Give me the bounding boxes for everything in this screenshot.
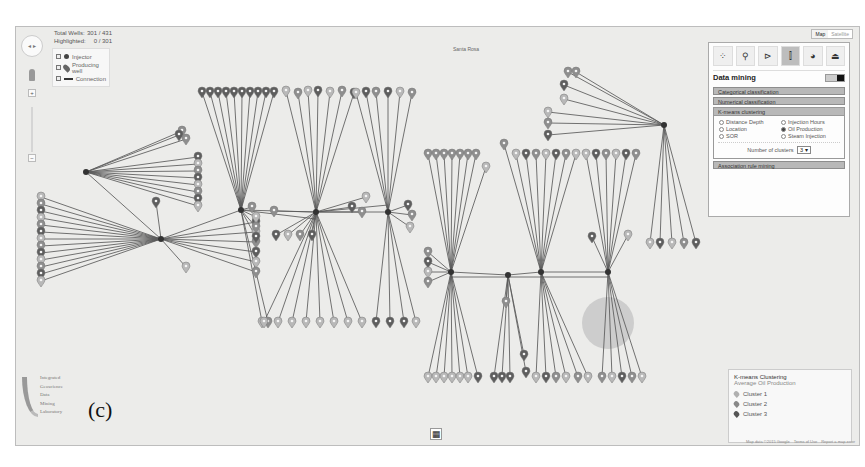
well-pin[interactable] (362, 192, 370, 203)
well-pin[interactable] (344, 317, 352, 328)
well-pin[interactable] (572, 67, 580, 78)
well-pin[interactable] (584, 372, 592, 383)
well-pin[interactable] (424, 149, 432, 160)
well-pin[interactable] (270, 87, 278, 98)
well-pin[interactable] (490, 372, 498, 383)
well-pin[interactable] (464, 372, 472, 383)
well-pin[interactable] (680, 238, 688, 249)
well-pin[interactable] (448, 372, 456, 383)
well-pin[interactable] (618, 372, 626, 383)
well-pin[interactable] (326, 87, 334, 98)
well-pin[interactable] (424, 247, 432, 258)
well-pin[interactable] (552, 149, 560, 160)
kmeans-option[interactable]: Steam Injection (781, 133, 839, 139)
well-pin[interactable] (386, 317, 394, 328)
well-pin[interactable] (582, 149, 590, 160)
well-pin[interactable] (238, 87, 246, 98)
well-pin[interactable] (456, 372, 464, 383)
search-icon[interactable]: ⚲ (736, 46, 756, 66)
well-pin[interactable] (294, 88, 302, 99)
zoom-out-button[interactable]: − (28, 154, 36, 162)
pie-icon[interactable]: ◕ (803, 46, 823, 66)
injector-node[interactable] (83, 169, 89, 175)
well-pin[interactable] (628, 372, 636, 383)
well-pin[interactable] (692, 238, 700, 249)
well-pin[interactable] (472, 149, 480, 160)
well-pin[interactable] (282, 86, 290, 97)
map-canvas[interactable]: ◂ ▸ + − Total Wells:301 / 431 Highlighte… (15, 26, 860, 446)
well-pin[interactable] (522, 367, 530, 378)
well-pin[interactable] (498, 372, 506, 383)
well-pin[interactable] (520, 350, 528, 361)
well-pin[interactable] (412, 317, 420, 328)
well-pin[interactable] (424, 257, 432, 268)
well-pin[interactable] (424, 277, 432, 288)
categorical-classification-section[interactable]: Categorical classification (713, 87, 845, 95)
legend-item-connection[interactable]: Connection (56, 73, 106, 84)
well-pin[interactable] (542, 149, 550, 160)
well-pin[interactable] (668, 238, 676, 249)
scatter-icon[interactable]: ⁘ (713, 46, 733, 66)
checkbox[interactable] (56, 65, 61, 70)
well-pin[interactable] (284, 230, 292, 241)
radio-button[interactable] (719, 134, 724, 139)
kmeans-option[interactable]: Location (719, 126, 777, 132)
zoom-slider[interactable] (31, 107, 33, 152)
well-pin[interactable] (206, 87, 214, 98)
association-rule-mining-section[interactable]: Association rule mining (713, 161, 845, 169)
well-pin[interactable] (358, 317, 366, 328)
well-pin[interactable] (288, 317, 296, 328)
well-pin[interactable] (330, 317, 338, 328)
checkbox[interactable] (56, 54, 61, 59)
well-pin[interactable] (448, 149, 456, 160)
injector-node[interactable] (238, 207, 244, 213)
well-pin[interactable] (522, 149, 530, 160)
well-pin[interactable] (544, 118, 552, 129)
well-pin[interactable] (314, 86, 322, 97)
legend-item-producing-well[interactable]: Producing well (56, 62, 106, 73)
well-pin[interactable] (512, 149, 520, 160)
well-pin[interactable] (638, 372, 646, 383)
injector-node[interactable] (448, 269, 454, 275)
well-pin[interactable] (572, 149, 580, 160)
well-pin[interactable] (408, 210, 416, 221)
well-pin[interactable] (646, 238, 654, 249)
injector-node[interactable] (661, 122, 667, 128)
well-pin[interactable] (316, 317, 324, 328)
well-pin[interactable] (338, 86, 346, 97)
radio-button[interactable] (781, 127, 786, 132)
well-pin[interactable] (424, 372, 432, 383)
well-pin[interactable] (272, 230, 280, 241)
well-pin[interactable] (230, 87, 238, 98)
well-pin[interactable] (542, 372, 550, 383)
well-pin[interactable] (574, 372, 582, 383)
checkbox[interactable] (56, 76, 61, 81)
kmeans-option[interactable]: SOR (719, 133, 777, 139)
flow-icon[interactable]: ⊳ (758, 46, 778, 66)
well-pin[interactable] (500, 139, 508, 150)
well-pin[interactable] (406, 222, 414, 233)
legend-item-injector[interactable]: Injector (56, 51, 106, 62)
injector-node[interactable] (313, 209, 319, 215)
well-pin[interactable] (252, 247, 260, 258)
injector-node[interactable] (605, 269, 611, 275)
well-pin[interactable] (632, 149, 640, 160)
well-pin[interactable] (482, 162, 490, 173)
well-pin[interactable] (182, 262, 190, 273)
kmeans-option[interactable]: Distance Depth (719, 119, 777, 125)
well-pin[interactable] (372, 317, 380, 328)
well-pin[interactable] (384, 87, 392, 98)
well-pin[interactable] (396, 87, 404, 98)
well-pin[interactable] (37, 276, 45, 287)
well-pin[interactable] (304, 86, 312, 97)
well-pin[interactable] (612, 149, 620, 160)
pegman-icon[interactable] (29, 69, 35, 81)
map-type-map[interactable]: Map (812, 30, 828, 38)
well-pin[interactable] (262, 87, 270, 98)
well-pin[interactable] (270, 206, 278, 217)
well-pin[interactable] (532, 149, 540, 160)
well-pin[interactable] (348, 202, 356, 213)
injector-node[interactable] (538, 269, 544, 275)
well-pin[interactable] (656, 238, 664, 249)
well-pin[interactable] (552, 372, 560, 383)
